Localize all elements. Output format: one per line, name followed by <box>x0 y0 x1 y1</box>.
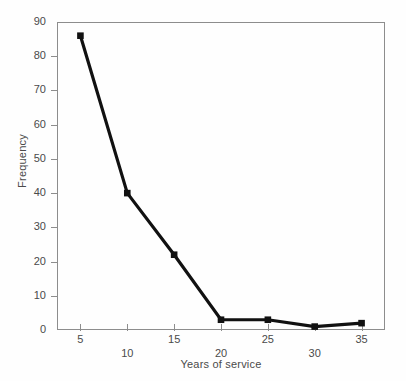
y-axis-title: Frequency <box>16 91 28 231</box>
y-axis-tick-label: 90 <box>34 15 46 27</box>
x-axis-tick-mark <box>80 324 81 331</box>
plot-frame <box>57 22 385 330</box>
x-axis-tick-mark <box>315 324 316 331</box>
y-axis-tick-label: 70 <box>34 83 46 95</box>
y-axis-tick-mark <box>51 125 57 126</box>
x-axis-tick-mark <box>127 324 128 331</box>
x-axis-title: Years of service <box>57 358 385 370</box>
y-axis-tick-label: 30 <box>34 220 46 232</box>
x-axis-tick-mark <box>221 324 222 331</box>
y-axis-tick-mark <box>51 262 57 263</box>
y-axis-tick-mark <box>51 193 57 194</box>
y-axis-tick-mark <box>51 296 57 297</box>
x-axis-tick-label: 10 <box>107 347 147 359</box>
y-axis-tick-label: 80 <box>34 49 46 61</box>
x-axis-tick-label: 30 <box>295 347 335 359</box>
y-axis-tick-mark <box>51 227 57 228</box>
y-axis-tick-label: 0 <box>40 323 46 335</box>
y-axis-tick-label: 50 <box>34 152 46 164</box>
frequency-line-chart: Frequency Years of service 0102030405060… <box>0 0 406 381</box>
y-axis-tick-mark <box>51 159 57 160</box>
y-axis-tick-label: 40 <box>34 186 46 198</box>
x-axis-tick-label: 15 <box>154 333 194 345</box>
y-axis-tick-label: 20 <box>34 255 46 267</box>
y-axis-tick-label: 60 <box>34 118 46 130</box>
y-axis-tick-mark <box>51 56 57 57</box>
y-axis-tick-mark <box>51 90 57 91</box>
x-axis-tick-mark <box>362 324 363 331</box>
x-axis-tick-mark <box>174 324 175 331</box>
y-axis-tick-label: 10 <box>34 289 46 301</box>
x-axis-tick-mark <box>268 324 269 331</box>
x-axis-tick-label: 35 <box>342 333 382 345</box>
x-axis-tick-label: 5 <box>60 333 100 345</box>
x-axis-tick-label: 20 <box>201 347 241 359</box>
x-axis-tick-label: 25 <box>248 333 288 345</box>
